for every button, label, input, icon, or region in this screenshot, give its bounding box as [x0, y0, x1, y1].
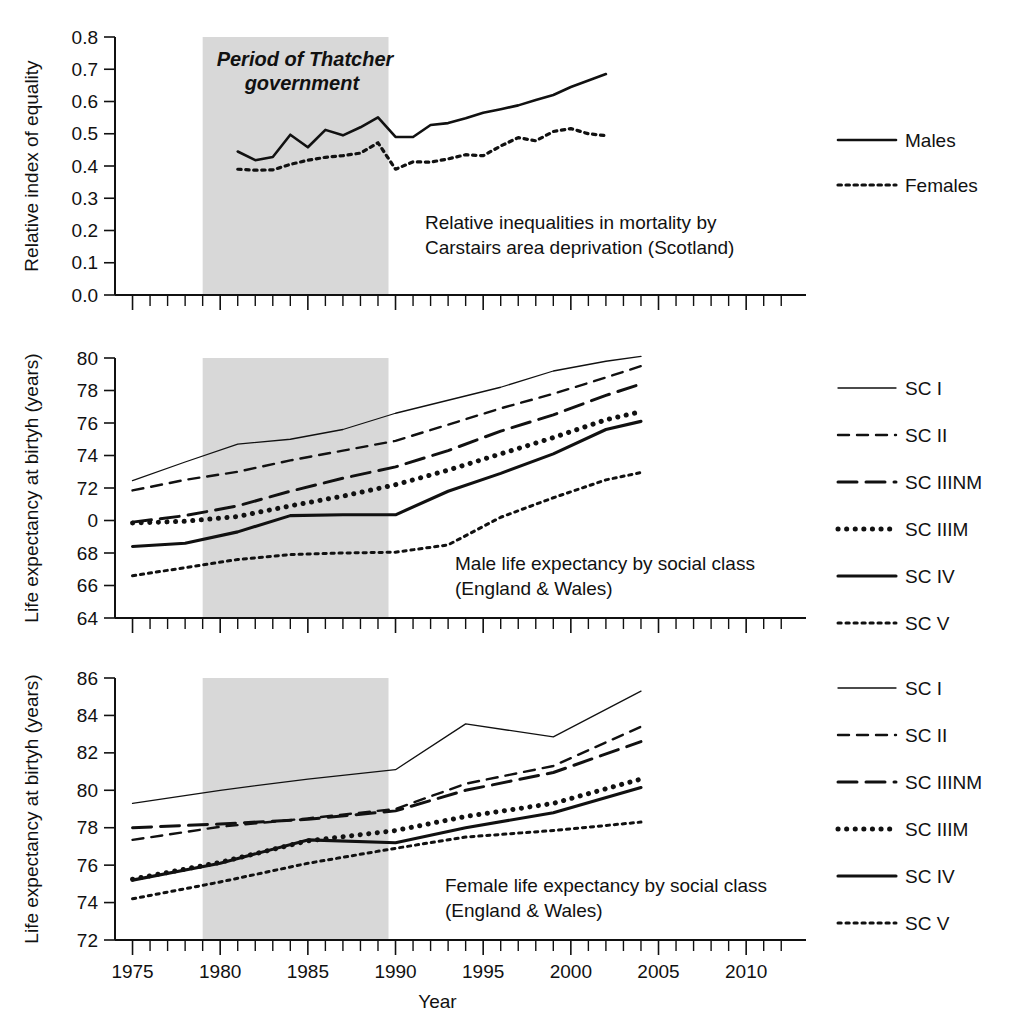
y-tick-label-middle-2: 68: [77, 543, 98, 564]
y-tick-label-bottom-3: 78: [77, 817, 98, 838]
y-tick-label-bottom-6: 84: [77, 705, 99, 726]
legend-label-sc-v: SC V: [905, 613, 950, 634]
y-tick-label-bottom-5: 82: [77, 742, 98, 763]
x-tick-label-0: 1975: [111, 961, 153, 982]
y-tick-label-middle-7: 78: [77, 380, 98, 401]
legend-item-middle-sc-iiinm: SC IIINM: [838, 472, 982, 493]
y-tick-label-middle-3: 0: [87, 510, 98, 531]
legend-item-bottom-sc-i: SC I: [838, 678, 942, 699]
annotation-line2-middle: (England & Wales): [455, 578, 613, 599]
legend-label-males: Males: [905, 130, 956, 151]
y-tick-label-bottom-2: 76: [77, 855, 98, 876]
annotation-line1-top: Relative inequalities in mortality by: [425, 212, 717, 233]
legend-label-females: Females: [905, 175, 978, 196]
y-tick-label-top-7: 0.7: [72, 59, 98, 80]
legend-label-sc-iiim: SC IIIM: [905, 519, 968, 540]
panel-gap-mask: [201, 296, 391, 358]
legend-item-bottom-sc-iiinm: SC IIINM: [838, 772, 982, 793]
y-tick-label-top-2: 0.2: [72, 220, 98, 241]
thatcher-label-line1: Period of Thatcher: [217, 48, 395, 70]
annotation-line1-bottom: Female life expectancy by social class: [445, 875, 767, 896]
legend-item-top-females: Females: [838, 175, 978, 196]
x-tick-label-7: 2010: [725, 961, 767, 982]
x-axis-title: Year: [418, 991, 457, 1012]
y-axis-title-top: Relative index of equality: [21, 60, 42, 272]
legend-item-bottom-sc-v: SC V: [838, 913, 950, 934]
legend-top: MalesFemales: [838, 130, 978, 196]
y-tick-label-top-6: 0.6: [72, 91, 98, 112]
legend-label-sc-iiinm: SC IIINM: [905, 772, 982, 793]
legend-label-sc-iiinm: SC IIINM: [905, 472, 982, 493]
legend-item-bottom-sc-ii: SC II: [838, 725, 947, 746]
y-tick-label-top-4: 0.4: [72, 156, 99, 177]
life-expectancy-figure: Period of Thatchergovernment0.00.10.20.3…: [0, 0, 1021, 1022]
y-tick-label-middle-4: 72: [77, 478, 98, 499]
y-axis-title-bottom: Life expectancy at birtyh (years): [21, 674, 42, 943]
y-tick-label-bottom-0: 72: [77, 930, 98, 951]
legend-middle: SC ISC IISC IIINMSC IIIMSC IVSC V: [838, 378, 982, 634]
legend-label-sc-iv: SC IV: [905, 866, 955, 887]
x-axis-labels: 19751980198519901995200020052010Year: [111, 961, 767, 1012]
annotation-line2-top: Carstairs area deprivation (Scotland): [425, 237, 734, 258]
legend-label-sc-i: SC I: [905, 678, 942, 699]
x-tick-label-4: 1995: [462, 961, 504, 982]
annotation-line2-bottom: (England & Wales): [445, 900, 603, 921]
y-tick-label-top-5: 0.5: [72, 123, 98, 144]
x-tick-label-5: 2000: [550, 961, 592, 982]
legend-item-middle-sc-iiim: SC IIIM: [838, 519, 968, 540]
thatcher-period-shading: [203, 37, 389, 940]
x-tick-label-6: 2005: [637, 961, 679, 982]
y-tick-label-top-8: 0.8: [72, 27, 98, 48]
x-tick-label-2: 1985: [287, 961, 329, 982]
legend-label-sc-ii: SC II: [905, 725, 947, 746]
x-tick-label-1: 1980: [199, 961, 241, 982]
legend-label-sc-v: SC V: [905, 913, 950, 934]
y-tick-label-top-3: 0.3: [72, 188, 98, 209]
legend-item-middle-sc-iv: SC IV: [838, 566, 955, 587]
thatcher-label-line2: government: [244, 72, 361, 94]
panel-gap-mask: [201, 619, 391, 678]
annotation-line1-middle: Male life expectancy by social class: [455, 553, 755, 574]
y-tick-label-middle-5: 74: [77, 445, 99, 466]
y-tick-label-bottom-4: 80: [77, 780, 98, 801]
y-axis-title-middle: Life expectancy at birtyh (years): [21, 353, 42, 622]
y-tick-label-bottom-7: 86: [77, 668, 98, 689]
chart-canvas: Period of Thatchergovernment0.00.10.20.3…: [0, 0, 1021, 1022]
legend-label-sc-i: SC I: [905, 378, 942, 399]
legend-item-middle-sc-v: SC V: [838, 613, 950, 634]
y-tick-label-middle-0: 64: [77, 608, 99, 629]
legend-item-middle-sc-ii: SC II: [838, 425, 947, 446]
panel-bottom: 7274767880828486Life expectancy at birty…: [21, 668, 806, 956]
legend-item-top-males: Males: [838, 130, 956, 151]
y-tick-label-top-1: 0.1: [72, 252, 98, 273]
legend-bottom: SC ISC IISC IIINMSC IIIMSC IVSC V: [838, 678, 982, 934]
legend-label-sc-ii: SC II: [905, 425, 947, 446]
y-tick-label-top-0: 0.0: [72, 285, 98, 306]
legend-item-bottom-sc-iv: SC IV: [838, 866, 955, 887]
panel-top: 0.00.10.20.30.40.50.60.70.8Relative inde…: [21, 27, 806, 311]
y-tick-label-middle-1: 66: [77, 575, 98, 596]
x-tick-label-3: 1990: [374, 961, 416, 982]
panel-middle: 64666807274767880Life expectancy at birt…: [21, 348, 806, 634]
legend-label-sc-iiim: SC IIIM: [905, 819, 968, 840]
legend-item-bottom-sc-iiim: SC IIIM: [838, 819, 968, 840]
y-tick-label-middle-6: 76: [77, 413, 98, 434]
legend-label-sc-iv: SC IV: [905, 566, 955, 587]
legend-item-middle-sc-i: SC I: [838, 378, 942, 399]
y-tick-label-bottom-1: 74: [77, 892, 99, 913]
y-tick-label-middle-8: 80: [77, 348, 98, 369]
